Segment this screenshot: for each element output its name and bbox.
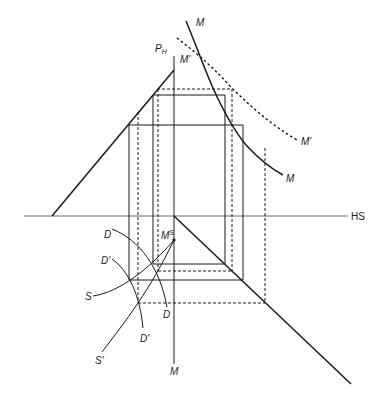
arc-d: [112, 229, 167, 307]
label-m-prime-top: M': [180, 54, 191, 65]
label-hs: HS: [351, 211, 365, 222]
right-diagonal-line: [174, 216, 351, 384]
curve-m: [186, 21, 283, 175]
label-d-upper: D: [104, 229, 111, 240]
label-d-prime-upper: D': [101, 255, 111, 266]
label-s-prime: S': [95, 355, 105, 366]
line-s-prime: [102, 240, 174, 352]
label-m-right: M: [286, 173, 295, 184]
label-d-prime-lower: D': [140, 333, 150, 344]
label-m-s: MS: [161, 229, 174, 241]
projection-diagram: M PH M' M' M HS D MS D' S D D' S' M: [0, 0, 384, 402]
label-m-top: M: [196, 17, 205, 28]
left-diagonal-line: [52, 70, 174, 216]
label-m-prime-right: M': [301, 136, 312, 147]
label-m-bottom: M: [170, 366, 179, 377]
label-s: S: [85, 291, 92, 302]
label-d-lower: D: [163, 309, 170, 320]
point-ms: [172, 238, 175, 241]
label-p-h: PH: [155, 43, 168, 55]
